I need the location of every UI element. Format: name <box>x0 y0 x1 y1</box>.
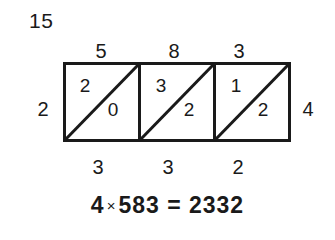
right-label: 4 <box>297 99 319 119</box>
top-label-2: 8 <box>163 41 185 61</box>
figure-number-label: 15 <box>29 10 53 31</box>
equation-right-operand: 583 <box>118 192 159 218</box>
bottom-label-3: 2 <box>227 157 249 177</box>
cell-3-lower-digit: 2 <box>254 100 272 119</box>
bottom-label-2: 3 <box>157 157 179 177</box>
equals-sign: = <box>167 192 181 218</box>
left-label: 2 <box>32 99 54 119</box>
equation-line: 4×583 = 2332 <box>0 193 335 218</box>
cell-2-lower-digit: 2 <box>180 100 198 119</box>
equation-left-operand: 4 <box>91 192 105 218</box>
top-label-1: 5 <box>90 41 112 61</box>
multiplication-sign-icon: × <box>105 197 119 214</box>
cell-1-upper-digit: 2 <box>76 76 94 95</box>
cell-2-upper-digit: 3 <box>152 76 170 95</box>
equation-result: 2332 <box>189 192 244 218</box>
figure-canvas: 15 5 8 3 2 4 2 0 3 2 1 2 3 3 2 4×583 = 2… <box>0 0 335 240</box>
top-label-3: 3 <box>228 41 250 61</box>
cell-1-lower-digit: 0 <box>104 100 122 119</box>
bottom-label-1: 3 <box>87 157 109 177</box>
cell-3-upper-digit: 1 <box>227 76 245 95</box>
